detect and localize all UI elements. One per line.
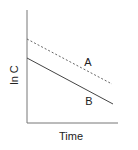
series-a-line xyxy=(27,39,112,84)
series-a-label: A xyxy=(84,56,92,68)
x-axis-label: Time xyxy=(59,130,83,142)
series-b-label: B xyxy=(85,95,92,107)
chart: A B Time ln C xyxy=(0,0,138,150)
series-b-line xyxy=(27,58,113,104)
y-axis-label: ln C xyxy=(8,65,20,85)
